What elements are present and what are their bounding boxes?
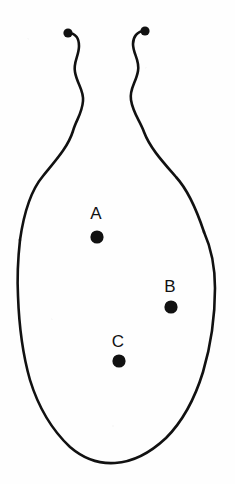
right-tentacle-path bbox=[131, 31, 204, 232]
marker-dot-c bbox=[112, 354, 125, 367]
right-tentacle-tip-bulb bbox=[140, 26, 149, 35]
marker-dot-b bbox=[164, 300, 177, 313]
left-tentacle-tip-bulb bbox=[63, 28, 72, 37]
marker-label-a: A bbox=[90, 204, 102, 223]
marker-dot-a bbox=[90, 230, 103, 243]
marker-label-b: B bbox=[164, 277, 175, 296]
marker-label-c: C bbox=[112, 332, 124, 351]
left-tentacle-path bbox=[20, 33, 83, 240]
figure-canvas: A B C bbox=[0, 0, 235, 484]
amoeba-diagram: A B C bbox=[0, 0, 235, 484]
